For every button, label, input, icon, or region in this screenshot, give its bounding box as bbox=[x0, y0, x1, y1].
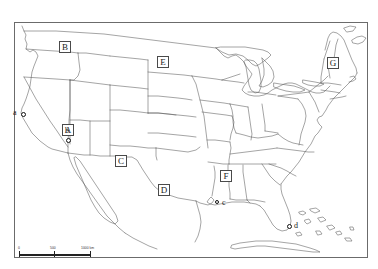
city-marker-a-label: a bbox=[13, 109, 17, 117]
city-marker-b-dot[interactable] bbox=[66, 138, 71, 143]
region-label-c[interactable]: C bbox=[115, 155, 127, 167]
region-label-e[interactable]: E bbox=[157, 56, 169, 68]
city-marker-a-dot[interactable] bbox=[21, 112, 26, 117]
scale-label-mid: 500 bbox=[50, 246, 56, 250]
city-marker-b-label: b bbox=[65, 127, 69, 135]
city-marker-d-label: d bbox=[294, 222, 298, 230]
region-label-b[interactable]: B bbox=[59, 41, 71, 53]
us-map-outline bbox=[0, 0, 378, 269]
scale-label-end: 1000 km bbox=[81, 246, 94, 250]
region-label-d[interactable]: D bbox=[158, 184, 170, 196]
city-marker-c-dot[interactable] bbox=[214, 199, 220, 205]
scale-bar-line bbox=[19, 254, 91, 256]
scale-tick-mid bbox=[54, 251, 55, 257]
region-label-g[interactable]: G bbox=[327, 57, 339, 69]
region-label-f[interactable]: F bbox=[220, 170, 232, 182]
scale-tick-end bbox=[90, 251, 91, 257]
scale-label-start: 0 bbox=[18, 246, 20, 250]
city-marker-d-dot[interactable] bbox=[287, 224, 292, 229]
map-container: A B C D E F G a b c d 0 500 1000 km bbox=[0, 0, 378, 269]
city-marker-c-label: c bbox=[222, 199, 226, 207]
scale-bar: 0 500 1000 km bbox=[19, 250, 91, 258]
scale-tick-start bbox=[19, 251, 20, 257]
